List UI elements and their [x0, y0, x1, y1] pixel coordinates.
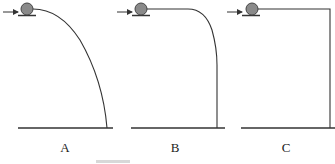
caption-remnant: [96, 160, 130, 163]
trajectory-c: [258, 9, 330, 128]
panel-a: [3, 3, 113, 128]
trajectory-a: [33, 9, 107, 128]
panel-label-c: C: [276, 140, 296, 156]
panel-label-a: A: [55, 140, 75, 156]
trajectory-b: [147, 9, 217, 128]
panel-b: [117, 3, 225, 128]
panel-c: [227, 3, 335, 128]
ball: [135, 3, 147, 15]
ball: [21, 3, 33, 15]
ball: [246, 3, 258, 15]
panel-label-b: B: [165, 140, 185, 156]
